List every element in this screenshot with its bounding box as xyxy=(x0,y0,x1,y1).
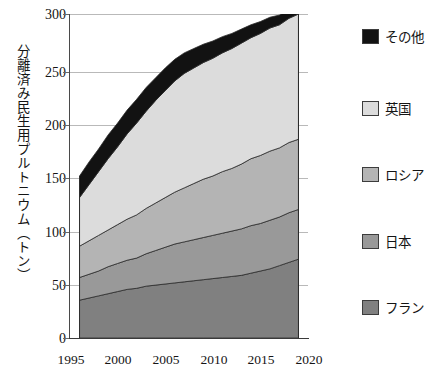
legend-swatch-japan xyxy=(362,234,379,249)
x-tick-1995: 1995 xyxy=(45,352,97,368)
plutonium-stacked-area-chart: 分離済み民生用プルトニウム（トン） 300 250 200 150 100 50… xyxy=(0,0,436,378)
chart-legend: その他 英国 ロシア 日本 フラン xyxy=(362,0,436,378)
y-tick-100: 100 xyxy=(32,228,66,238)
legend-label-japan: 日本 xyxy=(385,231,411,251)
legend-swatch-uk xyxy=(362,101,379,116)
legend-swatch-russia xyxy=(362,167,379,182)
stacked-area-svg xyxy=(70,14,308,338)
x-tick-2000: 2000 xyxy=(92,352,144,368)
x-axis-line xyxy=(69,338,309,339)
legend-label-russia: ロシア xyxy=(385,164,424,184)
x-tick-2020: 2020 xyxy=(283,352,335,368)
x-tick-2005: 2005 xyxy=(140,352,192,368)
y-axis-title: 分離済み民生用プルトニウム（トン） xyxy=(8,44,30,294)
y-tick-150: 150 xyxy=(32,174,66,184)
plot-area xyxy=(70,14,308,338)
legend-label-france: フラン xyxy=(385,297,424,317)
x-tick-2010: 2010 xyxy=(188,352,240,368)
x-tick-2015: 2015 xyxy=(235,352,287,368)
legend-swatch-sonota xyxy=(362,29,379,44)
y-tick-0: 0 xyxy=(32,334,66,344)
y-tick-200: 200 xyxy=(32,121,66,131)
legend-item-russia[interactable]: ロシア xyxy=(362,164,424,184)
y-tick-50: 50 xyxy=(32,281,66,291)
legend-item-uk[interactable]: 英国 xyxy=(362,98,411,118)
y-axis-tick-labels: 300 250 200 150 100 50 0 xyxy=(30,0,66,378)
legend-swatch-france xyxy=(362,300,379,315)
legend-label-sonota: その他 xyxy=(385,26,424,46)
legend-item-france[interactable]: フラン xyxy=(362,297,424,317)
legend-item-japan[interactable]: 日本 xyxy=(362,231,411,251)
y-tick-300: 300 xyxy=(32,10,66,20)
y-tick-250: 250 xyxy=(32,68,66,78)
legend-label-uk: 英国 xyxy=(385,98,411,118)
legend-item-sonota[interactable]: その他 xyxy=(362,26,424,46)
